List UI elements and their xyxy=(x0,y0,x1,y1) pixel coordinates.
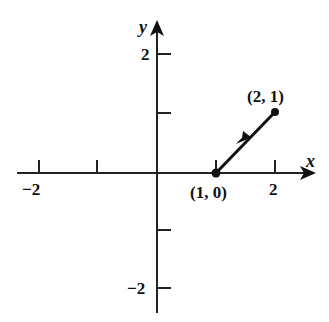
start-point xyxy=(212,169,221,178)
x-axis-label: x xyxy=(306,152,315,170)
x-tick-label-2: 2 xyxy=(269,181,278,198)
y-tick-label-2: 2 xyxy=(141,46,150,63)
start-point-label: (1, 0) xyxy=(190,184,227,201)
coordinate-plane xyxy=(0,0,329,322)
vector-line xyxy=(216,112,275,173)
end-point xyxy=(271,108,279,116)
y-tick-label-neg2: −2 xyxy=(127,280,145,297)
end-point-label: (2, 1) xyxy=(247,88,284,105)
x-tick-label-neg2: −2 xyxy=(22,181,40,198)
y-axis-label: y xyxy=(139,18,147,36)
vector-arrowhead-icon xyxy=(237,131,251,143)
